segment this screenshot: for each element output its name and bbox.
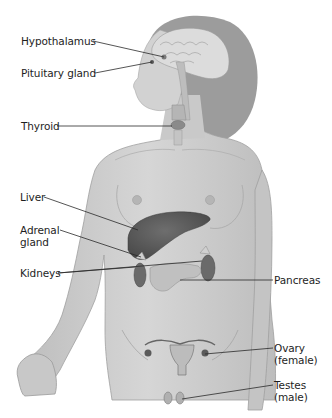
label-ovary: Ovary (female) [274, 342, 318, 366]
larynx [172, 105, 186, 120]
thyroid-organ [171, 121, 185, 130]
nipple-right [206, 196, 215, 205]
left-hand [17, 354, 56, 396]
label-liver: Liver [20, 191, 45, 203]
label-hypothalamus: Hypothalamus [21, 35, 96, 47]
nipple-left [133, 196, 142, 205]
ovary-left-organ [145, 350, 152, 357]
ovary-right-organ [202, 350, 209, 357]
testis-left-organ [164, 392, 172, 404]
testis-right-organ [176, 392, 184, 404]
label-pancreas: Pancreas [274, 274, 320, 286]
torso [20, 118, 276, 400]
label-adrenal-gland: Adrenal gland [20, 224, 60, 248]
label-kidneys: Kidneys [20, 267, 61, 279]
trachea [174, 130, 182, 145]
label-testes: Testes (male) [274, 379, 308, 403]
kidney-right [201, 255, 215, 281]
label-thyroid: Thyroid [21, 120, 60, 132]
label-pituitary-gland: Pituitary gland [21, 67, 96, 79]
